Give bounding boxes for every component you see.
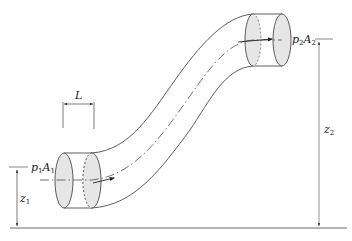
centerline bbox=[40, 40, 282, 180]
z1-label: z1 bbox=[19, 192, 30, 206]
inlet-label: p1A1 bbox=[31, 161, 55, 175]
inlet-back-face bbox=[55, 153, 73, 208]
pipe-flow-diagram: L p1A1 z1 p2A2 z2 bbox=[0, 0, 352, 241]
outlet-label: p2A2 bbox=[292, 33, 316, 47]
z2-label: z2 bbox=[323, 123, 334, 137]
length-label: L bbox=[74, 89, 82, 102]
